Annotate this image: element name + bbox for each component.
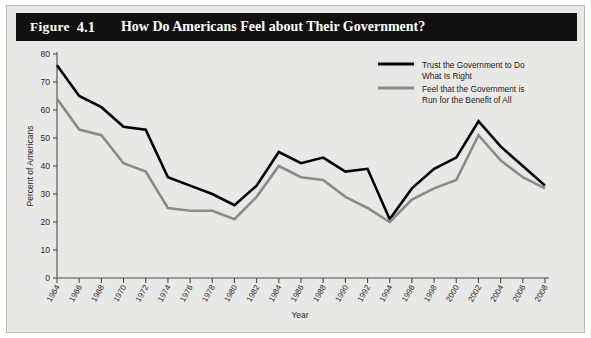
y-tick-label: 30 xyxy=(41,189,51,199)
x-tick-label: 1976 xyxy=(178,283,195,303)
x-tick-label: 2002 xyxy=(466,283,483,303)
series-line-benefit xyxy=(57,99,545,222)
y-tick-label: 50 xyxy=(41,133,51,143)
y-tick-label: 40 xyxy=(41,161,51,171)
x-tick-label: 1992 xyxy=(356,283,373,303)
x-tick-label: 1998 xyxy=(422,283,439,303)
y-tick-label: 70 xyxy=(41,77,51,87)
y-tick-label: 80 xyxy=(41,49,51,59)
x-tick-label: 1982 xyxy=(245,283,262,303)
x-tick-label: 2008 xyxy=(533,283,550,303)
y-axis-title: Percent of Americans xyxy=(25,126,35,207)
x-tick-label: 2006 xyxy=(511,283,528,303)
x-tick-label: 1978 xyxy=(200,283,217,303)
line-chart: 01020304050607080 1964196619681970197219… xyxy=(0,0,591,338)
x-tick-labels: 1964196619681970197219741976197819801982… xyxy=(45,283,550,303)
x-tick-label: 1970 xyxy=(112,283,129,303)
x-tick-label: 2000 xyxy=(444,283,461,303)
x-tick-label: 1986 xyxy=(289,283,306,303)
legend-label-1-line2: Run for the Benefit of All xyxy=(422,95,512,105)
x-axis-title: Year xyxy=(291,310,308,320)
y-tick-label: 10 xyxy=(41,245,51,255)
x-tick-label: 1972 xyxy=(134,283,151,303)
x-tick-label: 2004 xyxy=(489,283,506,303)
chart-area: 01020304050607080 1964196619681970197219… xyxy=(0,0,591,338)
x-tick-label: 1984 xyxy=(267,283,284,303)
legend-label-0-line2: What Is Right xyxy=(422,71,472,81)
x-tick-label: 1974 xyxy=(156,283,173,303)
x-tick-label: 1966 xyxy=(67,283,84,303)
y-tick-label: 20 xyxy=(41,217,51,227)
legend-label-1: Feel that the Government is xyxy=(422,84,524,94)
x-tick-label: 1980 xyxy=(222,283,239,303)
x-tick-label: 1990 xyxy=(333,283,350,303)
x-tick-label: 1988 xyxy=(311,283,328,303)
x-tick-label: 1964 xyxy=(45,283,62,303)
x-tick-label: 1968 xyxy=(89,283,106,303)
chart-legend: Trust the Government to DoWhat Is RightF… xyxy=(378,60,525,105)
y-tick-label: 0 xyxy=(45,273,50,283)
legend-label-0: Trust the Government to Do xyxy=(422,60,525,70)
x-tick-label: 1994 xyxy=(378,283,395,303)
y-tick-labels: 01020304050607080 xyxy=(41,49,51,283)
x-tick-label: 1996 xyxy=(400,283,417,303)
y-tick-label: 60 xyxy=(41,105,51,115)
